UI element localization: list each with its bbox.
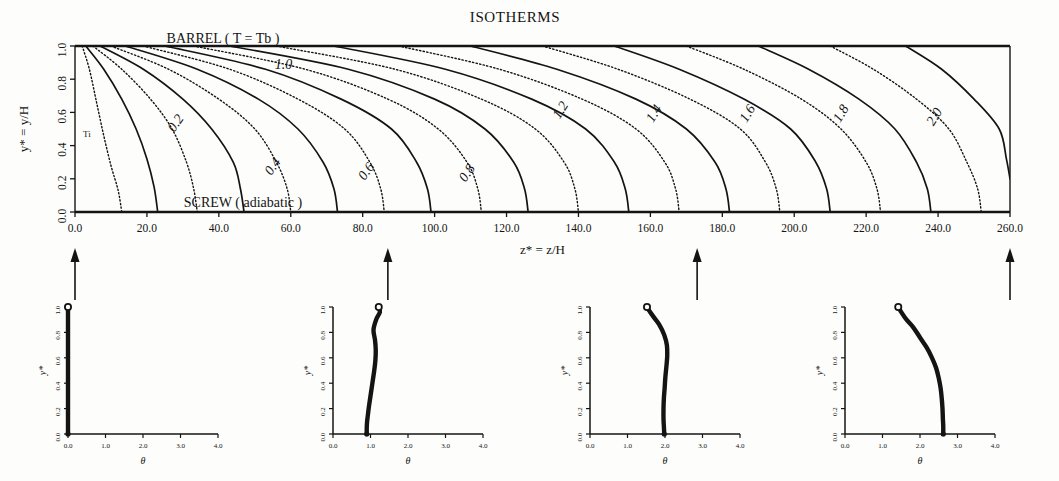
contour-line-0.9 [194, 46, 482, 212]
station-marker-173 [693, 248, 702, 300]
subplot-ytick-label-0: 0.4 [54, 381, 62, 390]
subplot-ytick-label-2: 0.4 [576, 381, 584, 390]
screw-label: SCREW ( adiabatic ) [184, 195, 303, 211]
profile-top-marker-0 [65, 304, 71, 310]
station-arrow-head [383, 248, 392, 262]
contour-line-1.8 [758, 46, 931, 212]
contour-line-1.9 [830, 46, 981, 212]
main-xtick-label: 60.0 [281, 222, 301, 234]
main-xtick-label: 140.0 [566, 222, 592, 234]
subplot-ytick-label-2: 0.6 [576, 356, 584, 365]
subplot-ytick-label-1: 1.0 [319, 305, 327, 314]
subplot-xaxis-label-3: θ [918, 455, 923, 466]
contour-label-1.4: 1.4 [643, 102, 665, 125]
subplot-xtick-label-2: 0.0 [586, 442, 595, 450]
subplot-xtick-label-3: 2.0 [916, 442, 925, 450]
contour-label-1: 1.0 [275, 57, 293, 72]
subplot-ytick-label-3: 1.0 [831, 305, 839, 314]
subplot-ytick-label-2: 0.2 [576, 407, 584, 416]
station-arrow-head [693, 248, 702, 262]
contour-label-2: 2.0 [923, 105, 945, 128]
profile-curve-profile-z260 [898, 307, 943, 434]
contour-label-0.8: 0.8 [456, 161, 478, 184]
profile-top-marker-1 [376, 304, 382, 310]
subplot-xtick-label-2: 3.0 [698, 442, 707, 450]
profile-curve-profile-z173 [647, 307, 667, 434]
main-xtick-label: 20.0 [137, 222, 157, 234]
contour-line-1.5 [543, 46, 780, 212]
main-xtick-label: 120.0 [494, 222, 520, 234]
subplot-xtick-label-3: 3.0 [953, 442, 962, 450]
isotherms-figure: ISOTHERMS0.20.40.60.81.01.21.41.61.82.0B… [0, 0, 1059, 481]
subplot-ytick-label-0: 0.8 [54, 331, 62, 340]
subplot-ytick-label-1: 0.4 [319, 381, 327, 390]
contour-line-1.7 [686, 46, 880, 212]
subplot-yaxis-label-1: y* [302, 366, 313, 376]
subplot-xaxis-label-0: θ [141, 455, 146, 466]
contour-label-0.2: 0.2 [164, 112, 186, 135]
subplot-ytick-label-1: 0.8 [319, 331, 327, 340]
main-xtick-label: 80.0 [353, 222, 373, 234]
subplot-ytick-label-1: 0.0 [319, 432, 327, 441]
subplot-xtick-label-1: 1.0 [366, 442, 375, 450]
subplot-xtick-label-2: 2.0 [661, 442, 670, 450]
contour-line-1.6 [614, 46, 830, 212]
main-xtick-label: 160.0 [637, 222, 663, 234]
station-marker-87 [383, 248, 392, 300]
subplot-xtick-label-0: 4.0 [214, 442, 223, 450]
station-arrow-head [71, 248, 80, 262]
subplot-xtick-label-1: 3.0 [441, 442, 450, 450]
main-xtick-label: 100.0 [422, 222, 448, 234]
subplot-yaxis-label-0: y* [37, 366, 48, 376]
barrel-label: BARREL ( T = Tb ) [167, 31, 280, 47]
contour-line-1.3 [399, 46, 680, 212]
subplot-ytick-label-3: 0.2 [831, 407, 839, 416]
profile-bottom-marker-2 [662, 431, 667, 436]
subplot-ytick-label-1: 0.2 [319, 407, 327, 416]
station-marker-260 [1006, 248, 1015, 300]
subplot-xtick-label-1: 4.0 [479, 442, 488, 450]
main-ytick-label: 1.0 [56, 43, 68, 58]
station-arrow-head [1006, 248, 1015, 262]
subplot-xtick-label-0: 0.0 [64, 442, 73, 450]
figure-canvas: ISOTHERMS0.20.40.60.81.01.21.41.61.82.0B… [0, 0, 1059, 481]
profile-bottom-marker-1 [364, 431, 369, 436]
subplot-xtick-label-3: 4.0 [991, 442, 1000, 450]
subplot-ytick-label-0: 1.0 [54, 305, 62, 314]
subplot-xtick-label-2: 4.0 [736, 442, 745, 450]
page-title: ISOTHERMS [470, 9, 560, 25]
subplot-xtick-label-1: 2.0 [404, 442, 413, 450]
subplot-ytick-label-3: 0.8 [831, 331, 839, 340]
contour-line-1.2 [334, 46, 629, 212]
subplot-ytick-label-2: 0.0 [576, 432, 584, 441]
subplot-ytick-label-2: 0.8 [576, 331, 584, 340]
profile-top-marker-3 [895, 304, 901, 310]
subplot-xtick-label-2: 1.0 [623, 442, 632, 450]
station-marker-0 [71, 248, 80, 300]
subplot-yaxis-label-3: y* [814, 366, 825, 376]
main-ytick-label: 0.8 [56, 76, 68, 91]
subplot-ytick-label-0: 0.6 [54, 356, 62, 365]
subplot-ytick-label-2: 1.0 [576, 305, 584, 314]
inlet-temperature-label: Ti [83, 129, 91, 139]
main-xtick-label: 240.0 [925, 222, 951, 234]
subplot-ytick-label-1: 0.6 [319, 356, 327, 365]
main-xtick-label: 200.0 [781, 222, 807, 234]
subplot-xtick-label-0: 1.0 [101, 442, 110, 450]
main-ytick-label: 0.2 [56, 175, 68, 190]
subplot-xtick-label-3: 1.0 [878, 442, 887, 450]
profile-bottom-marker-0 [65, 431, 70, 436]
subplot-ytick-label-3: 0.6 [831, 356, 839, 365]
profile-curve-profile-z87 [367, 307, 380, 434]
main-xtick-label: 180.0 [709, 222, 735, 234]
main-xaxis-label: z* = z/H [520, 242, 565, 257]
contour-label-0.4: 0.4 [262, 155, 284, 178]
subplot-xaxis-label-2: θ [663, 455, 668, 466]
subplot-xaxis-label-1: θ [406, 455, 411, 466]
main-ytick-label: 0.6 [56, 109, 68, 124]
contour-label-0.6: 0.6 [355, 160, 377, 183]
contour-line-0.6 [125, 46, 337, 212]
contour-lines [82, 46, 1010, 212]
subplot-xtick-label-0: 3.0 [176, 442, 185, 450]
main-xtick-label: 40.0 [209, 222, 229, 234]
